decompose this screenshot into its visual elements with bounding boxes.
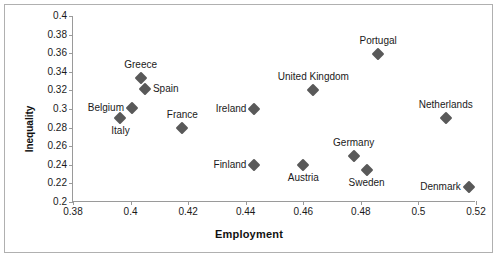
plot-area: 0.20.220.240.260.280.30.320.340.360.380.… — [72, 16, 475, 202]
x-axis-tick-label: 0.4 — [124, 207, 138, 217]
y-axis-tick-label: 0.3 — [53, 104, 67, 114]
x-axis-tick — [73, 201, 74, 205]
data-point-marker[interactable] — [360, 164, 373, 177]
y-axis-tick — [69, 35, 73, 36]
x-axis-tick — [246, 201, 247, 205]
data-point-label: France — [167, 110, 198, 120]
x-axis-tick — [418, 201, 419, 205]
data-point-label: Denmark — [420, 182, 461, 192]
data-point-label: United Kingdom — [278, 72, 349, 82]
data-point-label: Italy — [111, 126, 129, 136]
x-axis-tick-label: 0.52 — [466, 207, 485, 217]
data-point-label: Ireland — [216, 104, 247, 114]
y-axis-tick-label: 0.24 — [48, 160, 67, 170]
data-point-marker[interactable] — [248, 103, 261, 116]
x-axis-tick — [188, 201, 189, 205]
data-point-marker[interactable] — [139, 83, 152, 96]
y-axis-tick-label: 0.4 — [53, 11, 67, 21]
data-point-label: Spain — [153, 84, 179, 94]
data-point-marker[interactable] — [114, 112, 127, 125]
y-axis-tick — [69, 72, 73, 73]
y-axis-tick — [69, 16, 73, 17]
x-axis-tick-label: 0.5 — [411, 207, 425, 217]
data-point-marker[interactable] — [297, 158, 310, 171]
data-point-marker[interactable] — [347, 149, 360, 162]
data-point-marker[interactable] — [462, 181, 475, 194]
scatter-chart: Inequality 0.20.220.240.260.280.30.320.3… — [0, 0, 498, 258]
x-axis-tick-label: 0.42 — [178, 207, 197, 217]
y-axis-tick — [69, 90, 73, 91]
x-axis-title: Employment — [0, 228, 498, 240]
y-axis-tick-label: 0.34 — [48, 67, 67, 77]
x-axis-tick — [361, 201, 362, 205]
y-axis-tick — [69, 53, 73, 54]
x-axis-tick — [303, 201, 304, 205]
data-point-marker[interactable] — [126, 102, 139, 115]
data-point-label: Netherlands — [419, 100, 473, 110]
y-axis-tick-label: 0.38 — [48, 30, 67, 40]
plot-inner: 0.20.220.240.260.280.30.320.340.360.380.… — [73, 16, 475, 201]
x-axis-tick-label: 0.44 — [236, 207, 255, 217]
data-point-label: Portugal — [360, 36, 397, 46]
y-axis-tick-label: 0.28 — [48, 123, 67, 133]
data-point-label: Finland — [214, 160, 247, 170]
data-point-label: Germany — [333, 138, 374, 148]
y-axis-tick-label: 0.26 — [48, 141, 67, 151]
y-axis-tick — [69, 146, 73, 147]
data-point-marker[interactable] — [248, 158, 261, 171]
y-axis-tick-label: 0.22 — [48, 178, 67, 188]
data-point-marker[interactable] — [372, 48, 385, 61]
y-axis-tick — [69, 109, 73, 110]
y-axis-tick — [69, 183, 73, 184]
data-point-marker[interactable] — [176, 121, 189, 134]
x-axis-tick — [476, 201, 477, 205]
y-axis-title: Inequality — [24, 106, 35, 153]
y-axis-tick-label: 0.32 — [48, 85, 67, 95]
x-axis-tick — [131, 201, 132, 205]
data-point-marker[interactable] — [307, 84, 320, 97]
x-axis-tick-label: 0.38 — [63, 207, 82, 217]
data-point-marker[interactable] — [439, 112, 452, 125]
data-point-label: Greece — [124, 60, 157, 70]
y-axis-tick — [69, 165, 73, 166]
data-point-label: Austria — [288, 173, 319, 183]
data-point-label: Sweden — [349, 178, 385, 188]
x-axis-tick-label: 0.48 — [351, 207, 370, 217]
data-point-label: Belgium — [88, 103, 124, 113]
y-axis-tick-label: 0.36 — [48, 48, 67, 58]
y-axis-tick — [69, 128, 73, 129]
x-axis-tick-label: 0.46 — [294, 207, 313, 217]
